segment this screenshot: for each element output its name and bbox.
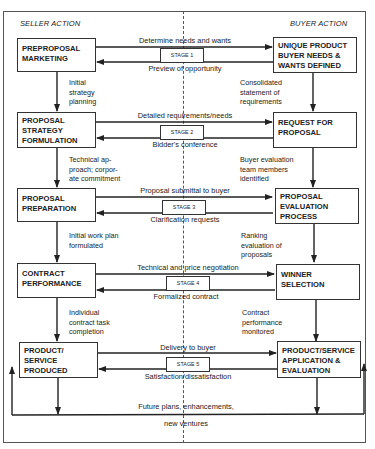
arrow-label-to-seller-2: Bidder's conference: [100, 140, 270, 149]
seller-transition-3: Initial work plan formulated: [69, 231, 119, 250]
buyer-transition-1: Consolidated statement of requirements: [240, 78, 282, 107]
stage-box-4: STAGE 4: [166, 276, 210, 291]
arrow-label-to-buyer-4: Technical and price negotiation: [102, 263, 274, 272]
arrow-label-to-buyer-3: Proposal submittal to buyer: [100, 186, 270, 195]
seller-box-preproposal-marketing: PREPROPOSAL MARKETING: [17, 38, 96, 72]
seller-box-contract-performance: CONTRACT PERFORMANCE: [17, 263, 96, 298]
seller-box-proposal-preparation: PROPOSAL PREPARATION: [17, 188, 96, 222]
arrow-label-to-buyer-2: Detailed requirements/needs: [100, 111, 270, 120]
arrow-label-to-seller-5: Satisfaction/dissatisfaction: [102, 372, 274, 381]
stage-box-2: STAGE 2: [160, 125, 204, 140]
seller-transition-1: Initial strategy planning: [69, 78, 96, 107]
arrow-label-to-seller-3: Clarification requests: [100, 215, 270, 224]
buyer-box-unique-product: UNIQUE PRODUCT BUYER NEEDS & WANTS DEFIN…: [273, 37, 357, 73]
buyer-transition-2: Buyer evaluation team members identified: [240, 155, 294, 184]
buyer-transition-3: Ranking evaluation of proposals: [241, 231, 282, 260]
buyer-box-product-service-application: PRODUCT/SERVICE APPLICATION & EVALUATION: [277, 341, 361, 378]
stage-box-5: STAGE 5: [166, 357, 210, 372]
buyer-box-request-for-proposal: REQUEST FOR PROPOSAL: [273, 112, 357, 148]
feedback-label-line1: Future plans, enhancements,: [100, 402, 272, 411]
seller-transition-4: Individual contract task completion: [69, 308, 110, 337]
seller-transition-2: Technical ap- proach; corpor- ate commit…: [69, 155, 120, 184]
arrow-label-to-buyer-5: Delivery to buyer: [102, 343, 274, 352]
seller-box-product-service-produced: PRODUCT/ SERVICE PRODUCED: [19, 342, 98, 378]
buyer-box-winner-selection: WINNER SELECTION: [276, 264, 360, 300]
buyer-box-proposal-evaluation: PROPOSAL EVALUATION PROCESS: [275, 188, 359, 224]
arrow-label-to-seller-4: Formalized contract: [100, 292, 272, 301]
arrow-label-to-seller-1: Preview of opportunity: [100, 64, 270, 73]
arrow-label-to-buyer-1: Determine needs and wants: [100, 36, 270, 45]
feedback-label-line2: new ventures: [100, 419, 272, 428]
seller-box-proposal-strategy: PROPOSAL STRATEGY FORMULATION: [17, 112, 96, 148]
stage-box-3: STAGE 3: [162, 200, 206, 215]
stage-box-1: STAGE 1: [160, 48, 204, 63]
buyer-transition-4: Contract performance monitored: [242, 308, 282, 337]
